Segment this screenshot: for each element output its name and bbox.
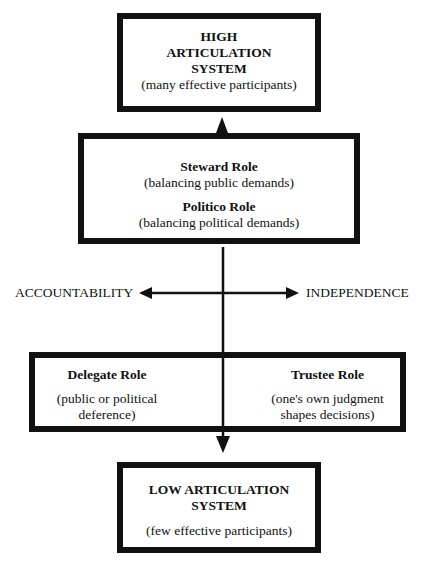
trustee-role-title: Trustee Role: [265, 367, 390, 383]
right-arrow-icon: [286, 287, 299, 299]
high-title-line-3: SYSTEM: [123, 61, 315, 77]
independence-label: INDEPENDENCE: [306, 285, 409, 301]
down-arrow-icon: [216, 436, 230, 453]
left-arrow-icon: [139, 287, 152, 299]
high-subtitle: (many effective participants): [123, 77, 315, 93]
high-title-line-2: ARTICULATION: [123, 45, 315, 61]
delegate-desc-line-2: deference): [52, 407, 162, 423]
accountability-label: ACCOUNTABILITY: [15, 285, 133, 301]
trustee-desc-line-1: (one's own judgment: [265, 391, 390, 407]
delegate-role-group: Delegate Role (public or political defer…: [52, 367, 162, 423]
high-title-line-1: HIGH: [123, 29, 315, 45]
steward-role-desc: (balancing public demands): [84, 175, 354, 191]
low-articulation-box: LOW ARTICULATION SYSTEM (few effective p…: [117, 462, 321, 553]
trustee-role-group: Trustee Role (one's own judgment shapes …: [265, 367, 390, 423]
low-subtitle: (few effective participants): [123, 523, 315, 539]
steward-role-title: Steward Role: [84, 159, 354, 175]
politico-role-title: Politico Role: [84, 199, 354, 215]
delegate-desc-line-1: (public or political: [52, 391, 162, 407]
trustee-desc-line-2: shapes decisions): [265, 407, 390, 423]
delegate-role-title: Delegate Role: [52, 367, 162, 383]
steward-politico-box: Steward Role (balancing public demands) …: [78, 133, 360, 244]
low-title-line-2: SYSTEM: [123, 498, 315, 514]
low-title-line-1: LOW ARTICULATION: [123, 482, 315, 498]
delegate-trustee-box: Delegate Role (public or political defer…: [29, 352, 406, 432]
high-articulation-box: HIGH ARTICULATION SYSTEM (many effective…: [117, 13, 321, 112]
politico-role-desc: (balancing political demands): [84, 215, 354, 231]
up-arrow-icon: [216, 117, 228, 133]
